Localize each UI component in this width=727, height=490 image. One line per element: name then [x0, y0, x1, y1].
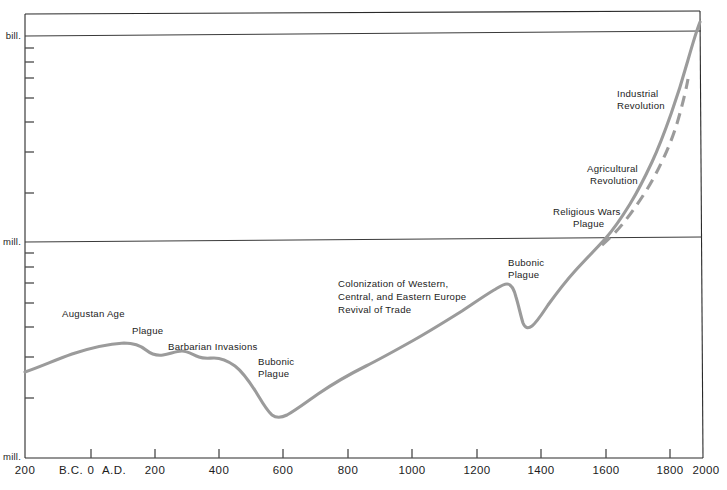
- y-label-ten-million: mill.: [3, 451, 21, 462]
- x-axis-labels: 200 B.C. 0 A.D. 200 400 600 800 1000 120…: [15, 464, 720, 476]
- y-label-hundred-million: mill.: [3, 236, 21, 247]
- x-label-bc-era: B.C.: [59, 464, 83, 476]
- annotation-agricultural-line1: Agricultural: [587, 163, 638, 174]
- x-label-1800: 1800: [656, 464, 683, 476]
- x-label-400: 400: [209, 464, 229, 476]
- annotation-agricultural-revolution: Agricultural Revolution: [587, 163, 638, 186]
- frame-top: [25, 11, 700, 14]
- annotation-religious-wars-line2: Plague: [573, 218, 604, 229]
- chart-canvas: bill. mill. mill. 200 B.C. 0 A.D. 200 40…: [0, 0, 727, 490]
- chart-annotations: Augustan Age Plague Barbarian Invasions …: [62, 88, 665, 379]
- x-axis-ticks: [91, 449, 670, 458]
- x-label-ad-era: A.D.: [102, 464, 126, 476]
- x-label-1400: 1400: [527, 464, 554, 476]
- annotation-bubonic-plague-1350: Bubonic Plague: [508, 257, 544, 280]
- annotation-augustan-age: Augustan Age: [62, 308, 125, 319]
- annotation-bubonic-plague-600-line2: Plague: [258, 368, 289, 379]
- annotation-colonization-line1: Colonization of Western,: [338, 278, 448, 289]
- x-label-1200: 1200: [463, 464, 490, 476]
- chart-frame: [25, 11, 703, 458]
- annotation-industrial-line1: Industrial: [617, 88, 658, 99]
- x-label-1000: 1000: [398, 464, 425, 476]
- x-label-200ad: 200: [145, 464, 165, 476]
- y-axis-labels: bill. mill. mill.: [3, 30, 21, 462]
- frame-right: [700, 11, 703, 458]
- x-label-600: 600: [273, 464, 293, 476]
- annotation-plague-antonine: Plague: [132, 325, 163, 336]
- annotation-colonization-line2: Central, and Eastern Europe: [338, 291, 466, 302]
- annotation-industrial-revolution: Industrial Revolution: [617, 88, 665, 111]
- annotation-religious-wars-line1: Religious Wars: [553, 206, 621, 217]
- y-axis-ticks: [25, 48, 34, 398]
- annotation-bubonic-plague-600-line1: Bubonic: [258, 356, 294, 367]
- y-label-billion: bill.: [6, 30, 21, 41]
- population-chart: bill. mill. mill. 200 B.C. 0 A.D. 200 40…: [0, 0, 727, 490]
- annotation-bubonic-plague-1350-line2: Plague: [508, 269, 539, 280]
- annotation-colonization-revival: Colonization of Western, Central, and Ea…: [338, 278, 466, 315]
- annotation-industrial-line2: Revolution: [617, 100, 665, 111]
- annotation-bubonic-plague-1350-line1: Bubonic: [508, 257, 544, 268]
- x-label-2000: 2000: [692, 464, 719, 476]
- annotation-barbarian-invasions: Barbarian Invasions: [168, 341, 258, 352]
- x-label-zero: 0: [88, 464, 95, 476]
- x-label-1600: 1600: [592, 464, 619, 476]
- x-label-200bc: 200: [15, 464, 35, 476]
- x-label-800: 800: [338, 464, 358, 476]
- grid-line-hundred-million: [25, 237, 702, 242]
- annotation-colonization-line3: Revival of Trade: [338, 304, 411, 315]
- annotation-bubonic-plague-600: Bubonic Plague: [258, 356, 294, 379]
- grid-line-billion: [25, 31, 701, 36]
- annotation-agricultural-line2: Revolution: [590, 175, 638, 186]
- annotation-religious-wars-plague: Religious Wars Plague: [553, 206, 621, 229]
